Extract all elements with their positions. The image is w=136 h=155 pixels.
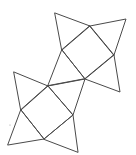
triangle-face-8 — [44, 115, 78, 152]
square-face-2 — [21, 86, 73, 139]
triangle-face-1 — [55, 13, 90, 50]
net-figure — [0, 0, 136, 155]
triangle-face-5 — [48, 79, 85, 115]
stray-dot — [9, 124, 10, 125]
square-face-1 — [62, 26, 114, 79]
triangle-face-6 — [14, 72, 48, 110]
triangle-face-7 — [8, 110, 44, 145]
triangle-face-4 — [48, 50, 85, 86]
net-diagram — [0, 0, 136, 155]
triangle-face-3 — [85, 55, 120, 92]
triangle-face-2 — [90, 19, 126, 55]
